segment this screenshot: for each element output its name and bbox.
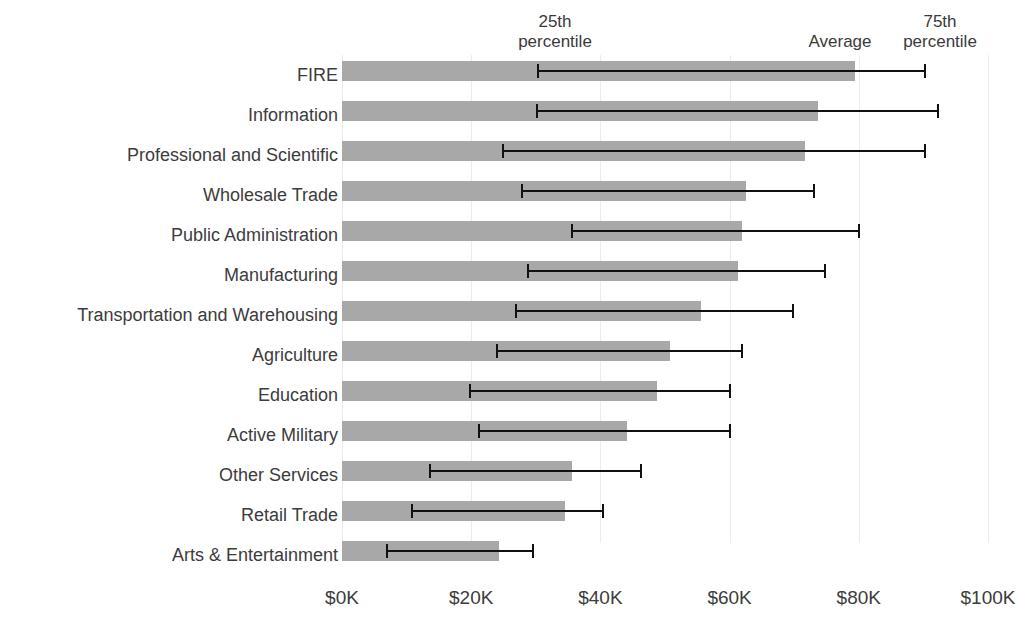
whisker-cap-p25 [429,464,431,478]
chart-row: Public Administration [0,215,1019,255]
percentile-whisker [516,310,793,312]
whisker-cap-p75 [858,224,860,238]
category-label: Other Services [219,464,338,486]
whisker-cap-p75 [792,304,794,318]
percentile-whisker [387,550,533,552]
whisker-cap-p75 [741,344,743,358]
whisker-cap-p25 [386,544,388,558]
category-label: Manufacturing [224,264,338,286]
x-tick-label: $20K [449,585,493,611]
whisker-cap-p25 [537,64,539,78]
whisker-cap-p25 [496,344,498,358]
x-tick-label: $40K [578,585,622,611]
percentile-whisker [528,270,825,272]
whisker-cap-p75 [729,384,731,398]
percentile-whisker [537,110,938,112]
percentile-whisker [479,430,730,432]
category-label: Arts & Entertainment [172,544,338,566]
chart-row: Manufacturing [0,255,1019,295]
whisker-cap-p75 [813,184,815,198]
chart-canvas: 25th percentile Average 75th percentile … [0,0,1019,644]
category-label: Agriculture [252,344,338,366]
percentile-whisker [470,390,730,392]
whisker-cap-p25 [527,264,529,278]
percentile-whisker [538,70,925,72]
category-label: Professional and Scientific [127,144,338,166]
percentile-whisker [503,150,925,152]
category-label: Information [248,104,338,126]
percentile-whisker [522,190,814,192]
whisker-cap-p75 [602,504,604,518]
chart-row: Information [0,95,1019,135]
whisker-cap-p75 [824,264,826,278]
whisker-cap-p75 [924,64,926,78]
x-axis: $0K$20K$40K$60K$80K$100K [0,585,1019,625]
percentile-whisker [497,350,742,352]
x-tick-label: $60K [707,585,751,611]
chart-row: Professional and Scientific [0,135,1019,175]
category-label: FIRE [297,64,338,86]
percentile-whisker [430,470,641,472]
category-label: Public Administration [171,224,338,246]
whisker-cap-p25 [502,144,504,158]
chart-row: Transportation and Warehousing [0,295,1019,335]
category-label: Retail Trade [241,504,338,526]
chart-row: Wholesale Trade [0,175,1019,215]
whisker-cap-p75 [937,104,939,118]
whisker-cap-p75 [532,544,534,558]
whisker-cap-p25 [571,224,573,238]
chart-row: Arts & Entertainment [0,535,1019,575]
annotation-75th-percentile: 75th percentile [885,12,995,52]
chart-row: FIRE [0,55,1019,95]
category-label: Active Military [227,424,338,446]
whisker-cap-p25 [536,104,538,118]
plot-area: FIREInformationProfessional and Scientif… [0,55,1019,585]
percentile-whisker [412,510,603,512]
whisker-cap-p25 [478,424,480,438]
x-tick-label: $100K [961,585,1016,611]
whisker-cap-p75 [924,144,926,158]
category-label: Transportation and Warehousing [77,304,338,326]
x-tick-label: $80K [837,585,881,611]
percentile-whisker [572,230,859,232]
annotation-average: Average [790,32,890,52]
chart-row: Education [0,375,1019,415]
chart-row: Retail Trade [0,495,1019,535]
x-tick-label: $0K [325,585,359,611]
whisker-cap-p25 [411,504,413,518]
whisker-cap-p75 [729,424,731,438]
whisker-cap-p25 [521,184,523,198]
category-label: Education [258,384,338,406]
category-label: Wholesale Trade [203,184,338,206]
chart-row: Other Services [0,455,1019,495]
annotation-25th-percentile: 25th percentile [495,12,615,52]
chart-row: Agriculture [0,335,1019,375]
whisker-cap-p75 [640,464,642,478]
whisker-cap-p25 [469,384,471,398]
chart-row: Active Military [0,415,1019,455]
whisker-cap-p25 [515,304,517,318]
